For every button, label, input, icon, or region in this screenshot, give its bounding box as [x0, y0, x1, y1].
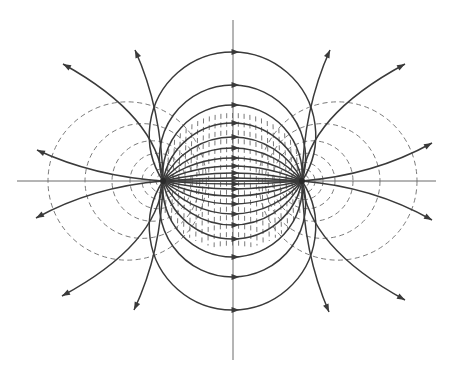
arrowhead-icon: [37, 150, 46, 156]
arrow-icon: [232, 274, 240, 280]
arrowhead-icon: [135, 50, 141, 59]
arrowhead-icon: [397, 294, 405, 300]
arrow-icon: [232, 82, 240, 88]
arrowhead-icon: [424, 143, 432, 149]
positive-charge: [160, 178, 166, 184]
arrow-icon: [232, 102, 240, 108]
arrowhead-icon: [324, 50, 330, 59]
arrowhead-icon: [424, 213, 432, 220]
dipole-field-diagram: [0, 0, 453, 368]
arrowhead-icon: [62, 290, 70, 296]
arrowhead-icon: [63, 64, 71, 71]
arrowhead-icon: [323, 303, 329, 312]
arrow-icon: [232, 254, 240, 260]
arrowhead-icon: [36, 212, 44, 218]
field-line-open: [302, 143, 432, 181]
field-line-open: [302, 181, 432, 220]
arrow-icon: [232, 49, 240, 55]
field-line-open: [63, 64, 163, 181]
arrowhead-icon: [134, 301, 140, 310]
field-line-open: [37, 150, 163, 181]
arrow-icon: [232, 307, 240, 313]
arrowhead-icon: [397, 64, 405, 70]
field-line-open: [62, 181, 163, 296]
negative-charge: [299, 178, 305, 184]
